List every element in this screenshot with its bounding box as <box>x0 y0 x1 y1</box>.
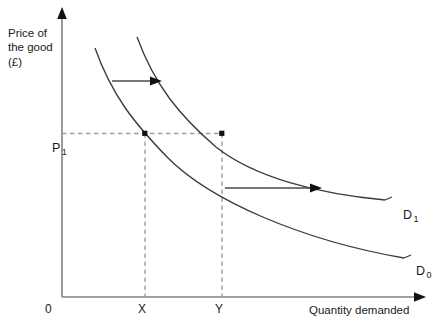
demand-curve-d0 <box>95 48 404 258</box>
lower-shift-arrow <box>225 183 322 192</box>
curve-label-d1-base: D <box>403 208 412 222</box>
price-tick-label-subscript: 1 <box>60 147 67 157</box>
curve-label-d0: D0 <box>402 248 431 295</box>
quantity-tick-label-x: X <box>138 302 146 317</box>
guide-lines-group <box>62 134 222 298</box>
price-tick-label-p1: P1 <box>38 125 67 172</box>
intersection-marker-y <box>219 131 224 136</box>
demand-curves-group <box>95 37 404 258</box>
price-tick-label-base: P <box>52 141 60 155</box>
curve-label-d1: D1 <box>389 192 418 239</box>
quantity-axis-title: Quantity demanded <box>309 303 409 317</box>
curve-label-d0-base: D <box>416 264 425 278</box>
demand-curve-d1 <box>137 37 385 200</box>
axes-group <box>57 7 426 302</box>
quantity-tick-label-y: Y <box>215 302 223 317</box>
curve-label-d0-subscript: 0 <box>425 270 432 280</box>
intersection-marker-x <box>142 131 147 136</box>
price-axis-arrowhead <box>57 7 67 19</box>
origin-label: 0 <box>45 302 52 317</box>
curve-label-d1-subscript: 1 <box>412 214 419 224</box>
price-axis-title: Price of the good (£) <box>8 26 53 69</box>
demand-curve-shift-diagram: Price of the good (£) Quantity demanded … <box>0 0 437 327</box>
upper-shift-arrow <box>112 76 162 85</box>
